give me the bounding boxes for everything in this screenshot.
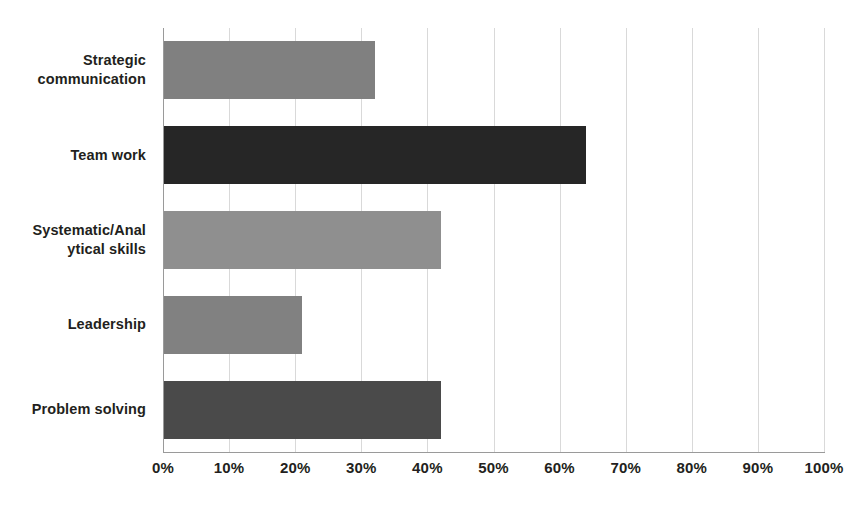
x-axis-tick-label: 70% xyxy=(610,459,641,476)
bar-series xyxy=(163,28,824,452)
y-axis-category-labels: Strategic communicationTeam workSystemat… xyxy=(0,28,155,452)
x-axis-tick-label: 60% xyxy=(544,459,575,476)
bar-row xyxy=(163,367,824,452)
y-axis-line xyxy=(163,28,164,453)
y-axis-category-label: Systematic/Anal ytical skills xyxy=(0,198,155,283)
y-axis-category-label: Team work xyxy=(0,113,155,198)
x-axis-tick-label: 20% xyxy=(280,459,311,476)
x-axis-tick-labels: 0%10%20%30%40%50%60%70%80%90%100% xyxy=(163,459,824,489)
x-axis-tick-label: 10% xyxy=(214,459,245,476)
gridline xyxy=(824,28,825,452)
bar xyxy=(163,211,441,269)
bar xyxy=(163,381,441,439)
plot-area xyxy=(163,28,824,452)
x-axis-tick-label: 0% xyxy=(152,459,174,476)
x-axis-tick-label: 100% xyxy=(804,459,843,476)
bar-row xyxy=(163,198,824,283)
x-axis-tick-label: 30% xyxy=(346,459,377,476)
x-axis-tick-label: 80% xyxy=(676,459,707,476)
x-axis-tick-label: 40% xyxy=(412,459,443,476)
x-axis-tick-label: 90% xyxy=(743,459,774,476)
bar xyxy=(163,296,302,354)
bar-row xyxy=(163,113,824,198)
y-axis-category-label: Leadership xyxy=(0,282,155,367)
bar-row xyxy=(163,28,824,113)
x-axis-line xyxy=(163,452,825,453)
bar xyxy=(163,126,586,184)
x-axis-tick-label: 50% xyxy=(478,459,509,476)
y-axis-category-label: Strategic communication xyxy=(0,28,155,113)
bar xyxy=(163,41,375,99)
y-axis-category-label: Problem solving xyxy=(0,367,155,452)
bar-row xyxy=(163,282,824,367)
